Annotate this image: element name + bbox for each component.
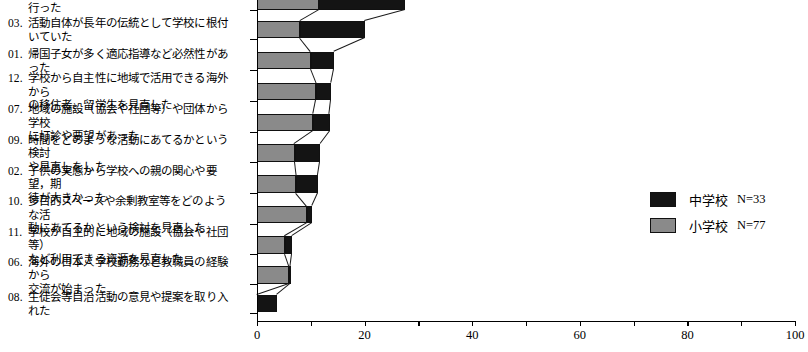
bar-segment-shogakko	[257, 144, 295, 162]
bar-segment-shogakko	[257, 266, 289, 284]
bar-segment-shogakko	[257, 83, 316, 101]
category-number: 11.	[8, 226, 28, 240]
legend-sample-size: N=77	[737, 218, 766, 233]
x-tick	[580, 321, 581, 326]
category-label: 01.帰国子女が多く適応指導など必然性があった	[8, 48, 228, 75]
category-number: 08.	[8, 291, 28, 305]
connector-line-chugakko	[319, 130, 329, 144]
y-tick	[250, 10, 257, 11]
y-tick	[250, 70, 257, 71]
chart-figure: 05.都市部の行事と行政の政策の一環として行った03.活動自体が長年の伝統として…	[0, 0, 808, 352]
bar-segment-chugakko	[285, 236, 292, 254]
y-tick	[250, 39, 257, 40]
legend-item: 中学校N=33	[650, 186, 766, 212]
connector-line-chugakko	[329, 100, 332, 114]
y-tick	[250, 284, 257, 285]
bar-segment-chugakko	[296, 175, 318, 193]
bar-segment-shogakko	[257, 206, 307, 224]
category-number: 01.	[8, 48, 28, 62]
connector-line-shogakko	[299, 38, 311, 52]
category-text: 帰国子女が多く適応指導など必然性があった	[28, 48, 228, 75]
legend-swatch	[650, 218, 676, 233]
y-tick	[250, 101, 257, 102]
bar-segment-shogakko	[257, 175, 296, 193]
bar-segment-shogakko	[257, 114, 313, 132]
connector-line-shogakko	[284, 254, 289, 267]
connector-line-shogakko	[300, 9, 319, 21]
x-tick-label: 0	[254, 328, 260, 343]
category-number: 09.	[8, 134, 28, 148]
x-tick	[687, 321, 688, 326]
x-tick	[418, 321, 419, 326]
bar-segment-chugakko	[289, 266, 291, 284]
connector-line-shogakko	[295, 193, 307, 207]
category-number: 10.	[8, 195, 28, 209]
category-number: 12.	[8, 72, 28, 86]
bar-segment-chugakko	[313, 114, 329, 132]
bar-segment-chugakko	[295, 144, 320, 162]
category-label: 08.生徒会等自治活動の意見や提案を取り入れた	[8, 291, 228, 318]
y-tick	[250, 313, 257, 314]
connector-line-chugakko	[330, 69, 334, 83]
x-tick-label: 100	[786, 328, 805, 343]
connector-line-shogakko	[313, 100, 317, 114]
x-tick-label: 40	[466, 328, 479, 343]
y-tick	[250, 224, 257, 225]
plot-area	[257, 0, 795, 322]
x-tick	[795, 321, 796, 326]
chart-legend: 中学校N=33小学校N=77	[650, 186, 766, 238]
connector-line-chugakko	[334, 37, 365, 51]
legend-label: 小学校	[689, 216, 737, 235]
x-tick-label: 80	[681, 328, 694, 343]
category-text: 活動自体が長年の伝統として学校に根付いていた	[28, 17, 228, 44]
legend-sample-size: N=33	[737, 192, 766, 207]
connector-line-shogakko	[294, 162, 297, 176]
bar-segment-chugakko	[300, 21, 365, 39]
category-number: 03.	[8, 17, 28, 31]
connector-line-shogakko	[284, 222, 307, 236]
legend-label: 中学校	[689, 190, 737, 209]
connector-line-chugakko	[311, 192, 318, 205]
y-tick	[250, 162, 257, 163]
bar-segment-shogakko	[257, 21, 300, 39]
x-tick	[311, 321, 312, 326]
x-tick	[526, 321, 527, 326]
bar-segment-chugakko	[307, 206, 312, 224]
x-tick	[634, 321, 635, 326]
x-tick	[365, 321, 366, 326]
bar-segment-shogakko	[257, 236, 285, 254]
y-axis-line	[257, 0, 258, 322]
bar-segment-chugakko	[316, 83, 331, 101]
connector-line-chugakko	[317, 161, 320, 175]
category-number: 06.	[8, 256, 28, 270]
connector-line-chugakko	[289, 253, 292, 266]
bar-segment-shogakko	[257, 52, 311, 70]
x-tick	[472, 321, 473, 326]
category-label: 03.活動自体が長年の伝統として学校に根付いていた	[8, 17, 228, 44]
connector-line-shogakko	[310, 69, 316, 83]
category-number: 05.	[8, 0, 28, 2]
category-text: 生徒会等自治活動の意見や提案を取り入れた	[28, 291, 228, 318]
category-number: 07.	[8, 103, 28, 117]
category-label: 05.都市部の行事と行政の政策の一環として行った	[8, 0, 228, 16]
y-tick	[250, 254, 257, 255]
x-tick	[257, 321, 258, 326]
legend-item: 小学校N=77	[650, 212, 766, 238]
legend-swatch	[650, 192, 676, 207]
bar-segment-chugakko	[319, 0, 405, 10]
category-text: 都市部の行事と行政の政策の一環として行った	[28, 0, 228, 16]
bar-segment-chugakko	[311, 52, 334, 70]
category-number: 02.	[8, 165, 28, 179]
bar-segment-shogakko	[257, 0, 319, 10]
x-tick-label: 20	[358, 328, 371, 343]
x-tick	[741, 321, 742, 326]
x-tick-label: 60	[574, 328, 587, 343]
y-tick	[250, 193, 257, 194]
y-tick	[250, 132, 257, 133]
connector-line-shogakko	[294, 130, 313, 144]
connector-line-chugakko	[364, 9, 405, 21]
bar-segment-chugakko	[257, 295, 277, 313]
